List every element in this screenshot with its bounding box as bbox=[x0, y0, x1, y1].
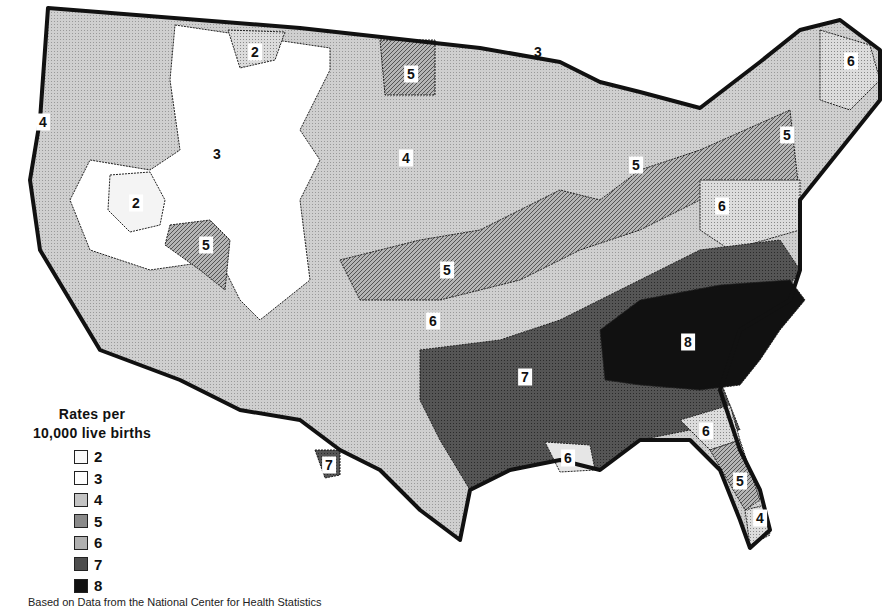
region-label-maine: 6 bbox=[844, 53, 858, 70]
legend: Rates per 10,000 live births 2345678 bbox=[22, 405, 162, 597]
region-label-carolinas-georgia: 8 bbox=[681, 334, 695, 351]
region-label-idaho-wyoming: 3 bbox=[210, 146, 224, 163]
legend-title-line1: Rates per bbox=[22, 405, 162, 424]
legend-swatch bbox=[74, 579, 88, 593]
legend-value: 6 bbox=[94, 534, 102, 551]
region-label-michigan: 5 bbox=[629, 157, 643, 174]
legend-item: 3 bbox=[74, 468, 162, 490]
legend-value: 4 bbox=[94, 491, 102, 508]
legend-value: 7 bbox=[94, 556, 102, 573]
legend-item: 7 bbox=[74, 554, 162, 576]
legend-swatch bbox=[74, 450, 88, 464]
region-label-florida: 5 bbox=[733, 473, 747, 490]
region-label-pennsylvania: 6 bbox=[715, 198, 729, 215]
legend-item: 8 bbox=[74, 575, 162, 597]
region-label-new-york: 5 bbox=[780, 127, 794, 144]
region-label-north-dakota: 5 bbox=[404, 66, 418, 83]
region-label-montana-north: 2 bbox=[248, 44, 262, 61]
legend-items: 2345678 bbox=[74, 446, 162, 597]
region-label-deep-south: 7 bbox=[518, 369, 532, 386]
region-label-utah-south: 5 bbox=[199, 237, 213, 254]
legend-swatch bbox=[74, 536, 88, 550]
region-label-nevada-north: 2 bbox=[129, 195, 143, 212]
legend-value: 2 bbox=[94, 448, 102, 465]
legend-title-line2: 10,000 live births bbox=[22, 424, 162, 443]
region-label-louisiana-coast: 6 bbox=[561, 450, 575, 467]
legend-swatch bbox=[74, 471, 88, 485]
legend-swatch bbox=[74, 514, 88, 528]
legend-value: 5 bbox=[94, 513, 102, 530]
region-label-pacific-northwest: 4 bbox=[36, 114, 50, 131]
legend-value: 8 bbox=[94, 577, 102, 594]
region-label-kansas-missouri: 5 bbox=[440, 262, 454, 279]
region-label-lake-superior: 3 bbox=[531, 44, 545, 61]
region-label-north-florida: 6 bbox=[699, 423, 713, 440]
region-label-plains: 4 bbox=[399, 150, 413, 167]
region-label-texas-south: 7 bbox=[322, 457, 336, 474]
legend-swatch bbox=[74, 557, 88, 571]
legend-value: 3 bbox=[94, 470, 102, 487]
legend-item: 5 bbox=[74, 511, 162, 533]
legend-swatch bbox=[74, 493, 88, 507]
region-label-south-florida: 4 bbox=[753, 510, 767, 527]
legend-item: 6 bbox=[74, 532, 162, 554]
legend-item: 2 bbox=[74, 446, 162, 468]
source-note: Based on Data from the National Center f… bbox=[28, 596, 321, 608]
region-label-oklahoma: 6 bbox=[426, 313, 440, 330]
legend-item: 4 bbox=[74, 489, 162, 511]
